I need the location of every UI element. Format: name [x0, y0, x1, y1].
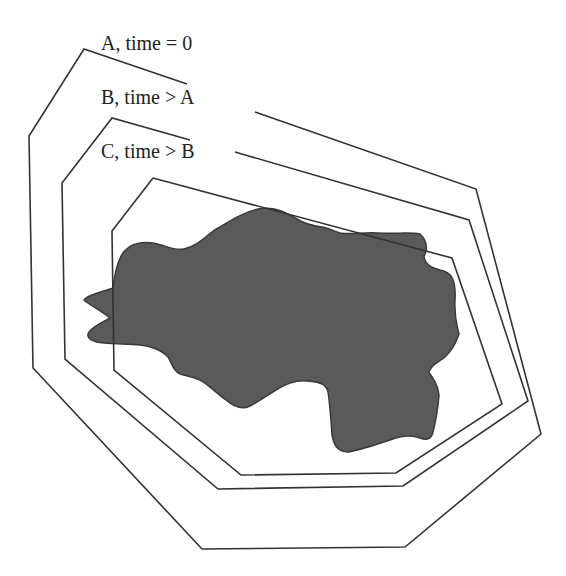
label-c: C, time > B	[101, 141, 195, 161]
diagram-canvas	[0, 0, 566, 576]
label-a: A, time = 0	[101, 33, 192, 53]
label-b: B, time > A	[101, 87, 195, 107]
